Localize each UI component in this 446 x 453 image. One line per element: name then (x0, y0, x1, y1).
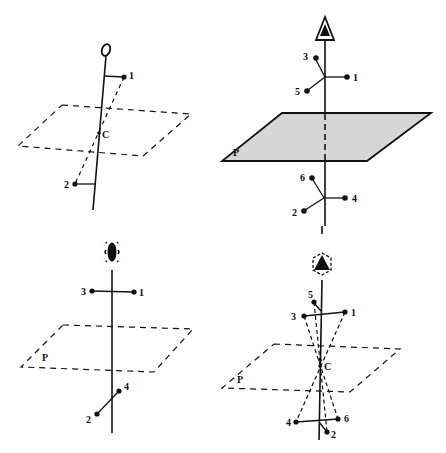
symmetry-diagram: 1 C 2 3 1 5 P 6 (0, 0, 446, 453)
atom-label-4: 4 (286, 417, 291, 428)
atom-2 (94, 411, 99, 416)
plane-label: P (42, 352, 48, 363)
atom-label-5: 5 (295, 86, 300, 97)
atom-4 (293, 419, 298, 424)
plane-label: P (233, 147, 239, 158)
atom-label-1: 1 (351, 307, 356, 318)
atom-6 (335, 416, 340, 421)
sixfold-inversion-axis-symbol-icon (313, 253, 331, 275)
atom-5 (304, 88, 310, 94)
twofold-axis-symbol-icon (100, 43, 112, 57)
center-label: C (102, 129, 109, 140)
atom-4 (116, 388, 121, 393)
fourfold-inversion-axis-symbol-icon (104, 242, 120, 262)
atom-2 (72, 181, 77, 186)
atom-label-4: 4 (124, 381, 129, 392)
atom-3 (89, 288, 94, 293)
panel-inversion-center: 1 C 2 (18, 43, 191, 210)
atom-label-6: 6 (344, 413, 349, 424)
atom-3 (313, 55, 319, 61)
atom-6 (309, 175, 315, 181)
atom-1 (344, 74, 350, 80)
atom-label-6: 6 (300, 172, 305, 183)
atom-label-3: 3 (303, 51, 308, 62)
atom-label-2: 2 (331, 429, 336, 440)
atom-4 (342, 195, 348, 201)
atom-label-3: 3 (81, 286, 86, 297)
dashed-plane (21, 325, 193, 372)
panel-mirror-axis: 3 1 5 P 6 4 2 (222, 17, 431, 226)
mirror-plane (222, 113, 431, 161)
panel-sixfold-rotoinversion: P 5 3 1 C 4 6 2 (222, 226, 400, 440)
plane-label: P (237, 374, 243, 385)
atom-label-1: 1 (129, 70, 134, 81)
atom-label-1: 1 (353, 72, 358, 83)
inversion-center (97, 131, 101, 135)
panel-fourfold-rotoinversion: 3 1 P 4 2 (21, 242, 193, 433)
atom-label-2: 2 (86, 414, 91, 425)
atom-2 (301, 208, 307, 214)
atom-2 (324, 429, 329, 434)
atom-label-3: 3 (291, 311, 296, 322)
atom-1 (131, 289, 136, 294)
atom-label-5: 5 (308, 289, 313, 300)
atom-label-2: 2 (292, 207, 297, 218)
dashed-plane (222, 344, 400, 392)
inversion-center (318, 364, 322, 368)
atom-label-4: 4 (352, 193, 357, 204)
center-label: C (324, 361, 331, 372)
atom-label-2: 2 (64, 179, 69, 190)
atom-label-1: 1 (139, 287, 144, 298)
